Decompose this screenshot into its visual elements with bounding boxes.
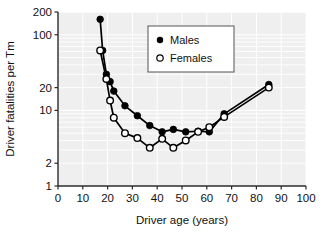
legend-marker-females — [157, 55, 163, 61]
x-tick-label: 90 — [275, 192, 288, 204]
x-tick-label: 60 — [200, 192, 213, 204]
legend-label-females: Females — [170, 52, 213, 64]
x-tick-label: 20 — [101, 192, 114, 204]
legend-box — [148, 26, 234, 72]
data-point — [122, 102, 129, 109]
x-axis-title: Driver age (years) — [136, 214, 228, 226]
data-point — [103, 76, 110, 83]
data-point — [221, 114, 228, 121]
data-point — [146, 145, 153, 152]
y-tick-label: 200 — [33, 6, 52, 18]
data-point — [134, 112, 141, 119]
data-point — [206, 124, 213, 131]
fatalities-vs-age-chart: 0102030405060708090100 121020100200 Male… — [0, 0, 328, 232]
x-tick-label: 70 — [225, 192, 238, 204]
data-point — [97, 47, 104, 54]
x-tick-label: 100 — [296, 192, 315, 204]
x-tick-label: 50 — [176, 192, 189, 204]
data-point — [111, 88, 118, 95]
data-point — [195, 129, 202, 136]
data-point — [97, 16, 104, 23]
data-point — [182, 137, 189, 144]
data-point — [170, 126, 177, 133]
data-point — [122, 130, 129, 137]
data-point — [107, 97, 114, 104]
legend-label-males: Males — [170, 34, 200, 46]
y-tick-label: 100 — [33, 29, 52, 41]
x-tick-label: 40 — [151, 192, 164, 204]
data-point — [134, 135, 141, 142]
data-point — [111, 114, 118, 121]
data-point — [170, 145, 177, 152]
y-axis-title: Driver fatalities per Tm — [4, 41, 16, 156]
y-tick-label: 20 — [39, 82, 52, 94]
legend-marker-males — [157, 37, 163, 43]
y-tick-label: 10 — [39, 104, 52, 116]
data-point — [266, 84, 273, 91]
data-point — [146, 122, 153, 129]
x-tick-label: 80 — [250, 192, 263, 204]
data-point — [159, 129, 166, 136]
legend: Males Females — [148, 26, 234, 72]
chart-figure: 0102030405060708090100 121020100200 Male… — [0, 0, 328, 232]
x-tick-label: 30 — [126, 192, 139, 204]
data-point — [159, 136, 166, 143]
data-point — [182, 129, 189, 136]
x-tick-label: 0 — [55, 192, 61, 204]
x-tick-label: 10 — [76, 192, 89, 204]
y-tick-label: 1 — [46, 180, 52, 192]
y-tick-label: 2 — [46, 157, 52, 169]
